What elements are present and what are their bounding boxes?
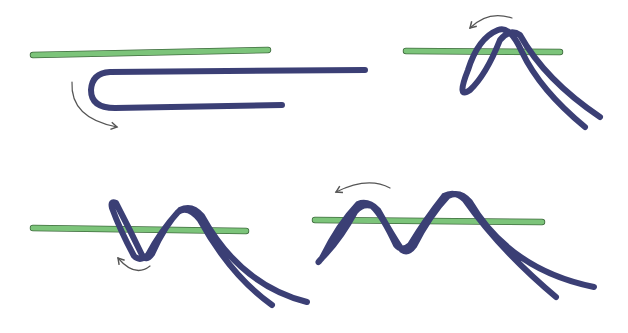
wrapped-line — [462, 29, 600, 127]
panel-step-3 — [33, 202, 307, 305]
wrapped-line — [112, 202, 308, 305]
knot-diagram — [0, 0, 628, 333]
direction-arrow-icon — [470, 16, 512, 28]
panel-step-1 — [33, 50, 365, 127]
direction-arrow-icon — [336, 183, 390, 192]
panel-step-2 — [406, 16, 600, 127]
wrapped-line — [318, 194, 594, 297]
panel-step-4 — [315, 183, 594, 297]
doubled-line — [91, 70, 365, 108]
